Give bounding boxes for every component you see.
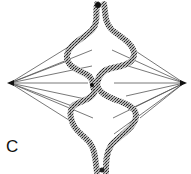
- right-pole-icon: [180, 80, 187, 86]
- left-spindle-fibers: [10, 46, 93, 122]
- right-spindle-fibers: [112, 46, 184, 134]
- centromere: [90, 83, 94, 87]
- chromatid-tip-top: [95, 2, 101, 8]
- left-pole-icon: [7, 80, 14, 86]
- chromatid-right: [97, 4, 136, 172]
- mitotic-spindle-figure: [0, 0, 191, 174]
- chromatid-tip-bottom: [100, 168, 105, 173]
- panel-label: C: [6, 138, 18, 155]
- spindle-diagram: [0, 0, 191, 174]
